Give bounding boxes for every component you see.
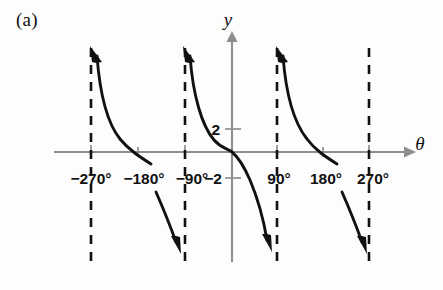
curve-branch-minus-90-to-90 [183,46,272,252]
curve-arrowhead-up-1 [90,46,102,63]
y-tick-label-minus-2: −2 [204,170,222,187]
curve-path-3 [283,56,337,164]
x-tick-label-270: 270° [357,170,389,187]
curve-arrowhead-down-tail-1 [171,236,181,254]
curve-path-tail-minus-90 [156,192,176,242]
y-axis-title: y [222,9,233,30]
y-tick-label-2: 2 [211,121,220,138]
curve-path-2 [190,56,267,240]
curve-arrowhead-up-2 [183,46,195,63]
x-tick-label-minus-180: −180° [123,170,164,187]
x-axis-arrowhead [404,147,416,158]
curve-arrowhead-down-2 [262,234,272,252]
curve-descending-tails [156,192,367,254]
curve-arrowhead-up-3 [276,46,288,63]
figure-panel: (a) [0,0,443,290]
curve-arrowhead-down-tail-2 [357,236,367,254]
curve-branch-90-to-270 [276,46,337,164]
asymptotes-group [91,48,369,262]
curve-branch-minus-270-to-minus-90 [90,46,151,164]
x-tick-label-180: 180° [310,170,342,187]
x-tick-label-minus-270: −270° [70,170,111,187]
axes-group [54,31,416,262]
x-axis-title: θ [415,133,424,154]
y-axis-arrowhead [227,31,238,42]
cotangent-graph: −270° −180° −90° 90° 180° 270° 2 −2 θ y [0,0,443,290]
x-tick-label-90: 90° [267,170,290,187]
curve-path-tail-270 [342,192,362,242]
curve-path-1 [97,56,151,164]
